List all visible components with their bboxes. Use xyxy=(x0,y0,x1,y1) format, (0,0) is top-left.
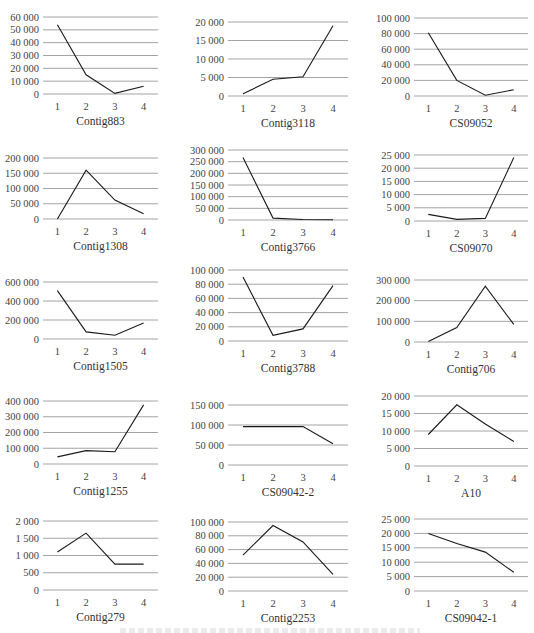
x-tick-label: 2 xyxy=(84,471,89,482)
charts-canvas: 010 00020 00030 00040 00050 00060 000123… xyxy=(0,0,534,633)
x-tick-label: 3 xyxy=(112,346,117,357)
y-tick-label: 20 000 xyxy=(381,163,410,174)
x-tick-label: 1 xyxy=(426,473,431,484)
y-tick-label: 20 000 xyxy=(195,17,224,28)
x-tick-label: 1 xyxy=(55,101,60,112)
y-tick-label: 15 000 xyxy=(381,176,410,187)
y-tick-label: 150 000 xyxy=(190,180,224,191)
line-chart-panel: 05 00010 00015 00020 00025 0001234CS0907… xyxy=(381,150,528,255)
chart-title: Contig3118 xyxy=(261,117,315,130)
y-tick-label: 50 000 xyxy=(195,203,224,214)
y-tick-label: 5 000 xyxy=(386,202,410,213)
data-series-line xyxy=(428,158,514,220)
y-tick-label: 80 000 xyxy=(195,279,224,290)
x-tick-label: 4 xyxy=(141,101,147,112)
x-tick-label: 1 xyxy=(426,228,431,239)
y-tick-label: 50 000 xyxy=(195,440,224,451)
data-series-line xyxy=(428,33,514,95)
x-tick-label: 2 xyxy=(84,346,89,357)
y-tick-label: 400 000 xyxy=(5,396,39,407)
y-tick-label: 20 000 xyxy=(10,63,39,74)
y-tick-label: 10 000 xyxy=(10,76,39,87)
y-tick-label: 500 xyxy=(23,567,39,578)
y-tick-label: 0 xyxy=(405,337,410,348)
x-tick-label: 2 xyxy=(84,597,89,608)
x-tick-label: 3 xyxy=(483,473,488,484)
x-tick-label: 3 xyxy=(300,103,305,114)
line-chart-panel: 05001 0001 5002 0001234Contig279 xyxy=(15,516,158,625)
x-tick-label: 1 xyxy=(240,348,245,359)
y-tick-label: 20 000 xyxy=(381,391,410,402)
y-tick-label: 5 000 xyxy=(200,72,224,83)
y-tick-label: 100 000 xyxy=(5,443,39,454)
x-tick-label: 3 xyxy=(112,471,117,482)
x-tick-label: 4 xyxy=(330,227,336,238)
x-tick-label: 2 xyxy=(270,103,275,114)
y-tick-label: 1 500 xyxy=(15,533,39,544)
y-tick-label: 0 xyxy=(34,89,39,100)
line-chart-panel: 05 00010 00015 00020 00025 0001234CS0904… xyxy=(381,514,528,625)
y-tick-label: 100 000 xyxy=(190,265,224,276)
x-tick-label: 4 xyxy=(141,226,147,237)
y-tick-label: 10 000 xyxy=(195,54,224,65)
x-tick-label: 2 xyxy=(84,226,89,237)
line-chart-panel: 0100 000200 000300 0001234Contig706 xyxy=(376,275,528,377)
line-chart-panel: 05 00010 00015 00020 0001234Contig3118 xyxy=(195,17,348,131)
x-tick-label: 2 xyxy=(454,349,459,360)
y-tick-label: 60 000 xyxy=(195,544,224,555)
chart-title: Contig1505 xyxy=(73,360,128,373)
x-tick-label: 4 xyxy=(141,471,147,482)
y-tick-label: 10 000 xyxy=(381,189,410,200)
y-tick-label: 0 xyxy=(34,214,39,225)
y-tick-label: 100 000 xyxy=(190,420,224,431)
y-tick-label: 80 000 xyxy=(195,530,224,541)
x-tick-label: 3 xyxy=(300,348,305,359)
figure-caption-cropped xyxy=(120,628,420,633)
x-tick-label: 2 xyxy=(84,101,89,112)
x-tick-label: 4 xyxy=(511,103,517,114)
x-tick-label: 1 xyxy=(55,471,60,482)
line-chart-panel: 050 000100 000150 000200 0001234Contig13… xyxy=(5,153,158,254)
y-tick-label: 0 xyxy=(219,460,224,471)
y-tick-label: 200 000 xyxy=(5,315,39,326)
chart-title: Contig3766 xyxy=(261,241,316,254)
y-tick-label: 250 000 xyxy=(190,156,224,167)
x-tick-label: 1 xyxy=(426,103,431,114)
chart-title: A10 xyxy=(461,487,481,499)
y-tick-label: 25 000 xyxy=(381,514,410,525)
x-tick-label: 4 xyxy=(330,598,336,609)
y-tick-label: 15 000 xyxy=(381,542,410,553)
y-tick-label: 0 xyxy=(405,586,410,597)
x-tick-label: 1 xyxy=(426,598,431,609)
x-tick-label: 4 xyxy=(511,473,517,484)
y-tick-label: 50 000 xyxy=(10,198,39,209)
line-chart-panel: 020 00040 00060 00080 000100 0001234CS09… xyxy=(376,13,528,130)
chart-title: Contig883 xyxy=(76,115,125,128)
line-chart-panel: 010 00020 00030 00040 00050 00060 000123… xyxy=(10,12,158,129)
x-tick-label: 2 xyxy=(454,103,459,114)
x-tick-label: 2 xyxy=(270,598,275,609)
line-chart-panel: 050 000100 000150 000200 000250 000300 0… xyxy=(190,145,348,255)
line-chart-panel: 0100 000200 000300 000400 0001234Contig1… xyxy=(5,396,158,499)
x-tick-label: 2 xyxy=(270,227,275,238)
x-tick-label: 3 xyxy=(483,349,488,360)
x-tick-label: 4 xyxy=(330,472,336,483)
data-series-line xyxy=(428,533,514,572)
x-tick-label: 4 xyxy=(141,346,147,357)
x-tick-label: 3 xyxy=(112,101,117,112)
y-tick-label: 60 000 xyxy=(10,12,39,23)
y-tick-label: 20 000 xyxy=(381,528,410,539)
y-tick-label: 2 000 xyxy=(15,516,39,527)
y-tick-label: 100 000 xyxy=(190,517,224,528)
x-tick-label: 3 xyxy=(300,472,305,483)
y-tick-label: 30 000 xyxy=(10,50,39,61)
y-tick-label: 10 000 xyxy=(381,426,410,437)
x-tick-label: 3 xyxy=(112,597,117,608)
x-tick-label: 4 xyxy=(330,348,336,359)
y-tick-label: 150 000 xyxy=(5,168,39,179)
y-tick-label: 40 000 xyxy=(381,59,410,70)
y-tick-label: 0 xyxy=(405,216,410,227)
data-series-line xyxy=(57,170,143,219)
y-tick-label: 0 xyxy=(34,459,39,470)
x-tick-label: 1 xyxy=(55,346,60,357)
